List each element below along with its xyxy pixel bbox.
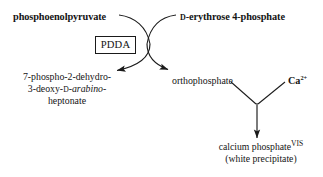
reagent-calcium-label: Ca2+	[288, 75, 307, 86]
dahp-configuration-arabino: arabino	[72, 83, 103, 94]
product-orthophosphate-label: orthophosphate	[172, 75, 233, 86]
calcium-join-line	[258, 82, 285, 104]
dahp-line-2-prefix: 3-deoxy-	[28, 83, 63, 94]
substrate-erythrose-4-phosphate-label: D-erythrose 4-phosphate	[180, 11, 285, 23]
dahp-line-3: heptonate	[48, 95, 86, 106]
orthophosphate-join-line	[231, 82, 256, 104]
product-dahp-label: 7-phospho-2-dehydro- 3-deoxy-D-arabino- …	[8, 71, 126, 107]
final-product-name: calcium phosphate	[219, 141, 291, 152]
substrate-erythrose-text: -erythrose 4-phosphate	[186, 11, 285, 22]
enzyme-pdda-label: PDDA	[101, 39, 131, 51]
final-product-label: calcium phosphateVIS (white precipitate)	[203, 141, 319, 166]
reagent-calcium-symbol: Ca	[288, 75, 300, 86]
final-product-superscript-vis: VIS	[291, 139, 303, 148]
dahp-line-2-dash-b: -	[103, 83, 106, 94]
substrate-right-connector	[147, 15, 176, 44]
reagent-calcium-charge: 2+	[300, 74, 307, 81]
reaction-diagram: phosphoenolpyruvate D-erythrose 4-phosph…	[0, 0, 323, 177]
substrate-phosphoenolpyruvate-label: phosphoenolpyruvate	[13, 11, 106, 23]
dahp-line-1: 7-phospho-2-dehydro-	[23, 71, 111, 82]
final-product-note: (white precipitate)	[225, 153, 296, 164]
enzyme-pdda-box: PDDA	[95, 36, 136, 54]
